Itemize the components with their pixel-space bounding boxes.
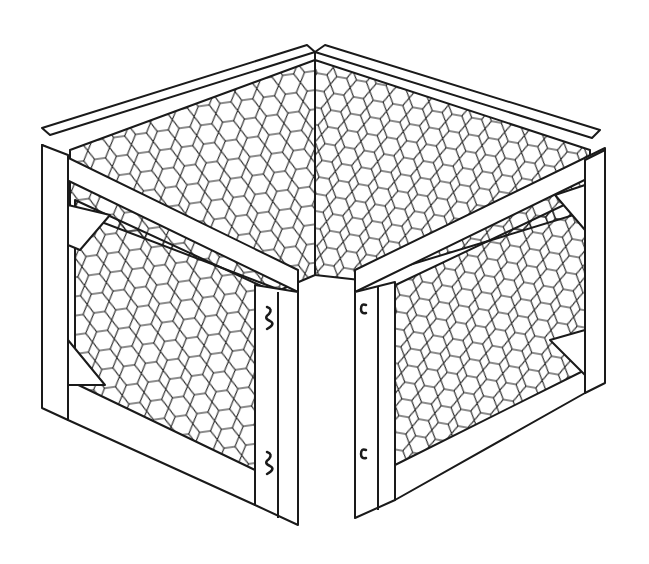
illustration-canvas [0, 0, 649, 564]
left-outer-post [42, 145, 68, 420]
right-inner-post [355, 282, 395, 518]
left-inner-post [255, 285, 298, 525]
wire-enclosure-drawing [0, 0, 649, 564]
right-outer-post [585, 150, 605, 393]
